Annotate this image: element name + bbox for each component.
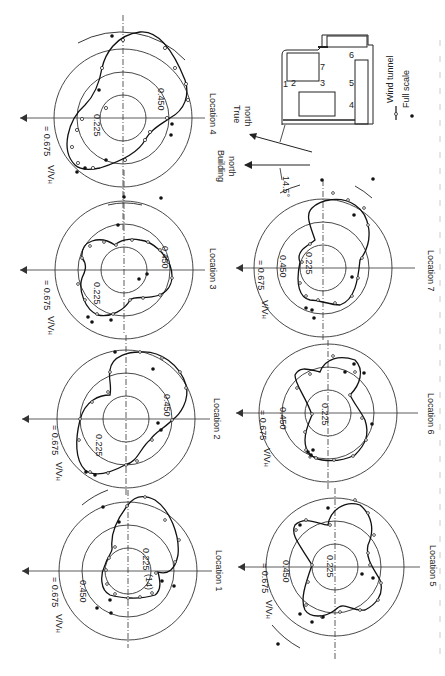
plan-location-7: 7 <box>320 62 325 72</box>
location-2-label: Location 2 <box>212 398 222 440</box>
location-6-label: Location 6 <box>426 393 436 435</box>
svg-text:0.450: 0.450 <box>78 580 88 603</box>
polar-plot-location-1: 0.225 (14) 0.450 = 0.675 V/VH Location 1 <box>22 490 224 648</box>
svg-text:= 0.675: = 0.675 <box>50 425 60 455</box>
building-north-line2: north <box>227 156 237 177</box>
location-4-label: Location 4 <box>208 93 218 135</box>
ring-label-0225: 0.225 <box>92 114 102 137</box>
svg-text:= 0.675: = 0.675 <box>258 410 268 440</box>
polar-plot-location-4: 0.450 0.225 = 0.675 V/VH Location 4 <box>20 15 218 230</box>
location-5-label: Location 5 <box>428 545 438 587</box>
svg-text:0.450: 0.450 <box>162 394 172 417</box>
svg-text:V/VH: V/VH <box>260 300 270 319</box>
polar-plot-location-2: 0.450 0.225 = 0.675 V/VH Location 2 <box>22 335 222 495</box>
svg-text:V/VH: V/VH <box>54 614 64 633</box>
svg-text:0.225: 0.225 <box>94 434 104 457</box>
svg-text:= 0.675: = 0.675 <box>260 563 270 593</box>
ratio-equals-label: = 0.675 <box>42 126 52 156</box>
svg-text:0.450: 0.450 <box>278 255 288 278</box>
true-north-line1: True <box>232 105 242 123</box>
svg-text:0.225: 0.225 <box>92 282 102 305</box>
svg-text:0.225: 0.225 <box>325 555 335 578</box>
plan-location-4: 4 <box>349 100 354 110</box>
building-site-plan: 1 2 3 4 5 6 7 <box>282 35 373 125</box>
svg-text:0.450: 0.450 <box>160 246 170 269</box>
ratio-label: V/VH <box>46 165 56 184</box>
polar-plot-location-3: 0.450 0.225 = 0.675 V/VH Location 3 <box>20 170 218 339</box>
svg-text:V/VH: V/VH <box>264 600 274 619</box>
location-3-label: Location 3 <box>208 248 218 290</box>
polar-plot-location-5: 0.225 0.450 = 0.675 V/VH Location 5 <box>238 488 438 660</box>
plan-location-6: 6 <box>349 50 354 60</box>
svg-text:0.225: 0.225 <box>320 403 330 426</box>
location-7-label: Location 7 <box>426 250 436 292</box>
compass-arrows: Building north True north 14.5° <box>216 105 312 198</box>
legend: Wind tunnel Full scale <box>385 55 414 120</box>
svg-text:= 0.675: = 0.675 <box>256 260 266 290</box>
plan-location-3: 3 <box>320 78 325 88</box>
polar-figure: 0.450 0.225 = 0.675 V/VH Location 4 0.45… <box>0 0 445 676</box>
annotation-14: (14) <box>144 574 154 590</box>
legend-wind-tunnel: Wind tunnel <box>385 55 395 103</box>
legend-full-scale: Full scale <box>401 70 411 108</box>
svg-text:V/VH: V/VH <box>46 316 56 335</box>
svg-text:0.225: 0.225 <box>304 252 314 275</box>
svg-text:V/VH: V/VH <box>54 462 64 481</box>
location-1-label: Location 1 <box>214 550 224 592</box>
svg-text:0.225: 0.225 <box>141 548 151 571</box>
building-north-line1: Building <box>216 150 226 182</box>
polar-plot-location-7: 0.225 0.450 = 0.675 V/VH Location 7 <box>236 177 436 340</box>
polar-plot-location-6: 0.225 0.450 = 0.675 V/VH Location 6 <box>236 340 436 490</box>
svg-text:= 0.675: = 0.675 <box>42 280 52 310</box>
svg-text:0.450: 0.450 <box>281 560 291 583</box>
angle-label: 14.5° <box>281 176 291 198</box>
plan-location-1: 1 <box>283 79 288 89</box>
full-scale-dot-icon <box>410 114 414 118</box>
svg-text:V/VH: V/VH <box>262 448 272 467</box>
building-north-arrow-icon <box>244 161 252 169</box>
true-north-arrow-icon <box>249 133 257 140</box>
plan-location-2: 2 <box>291 78 296 88</box>
svg-text:= 0.675: = 0.675 <box>50 577 60 607</box>
svg-text:0.450: 0.450 <box>278 407 288 430</box>
ring-label-0450: 0.450 <box>156 88 166 111</box>
plan-location-5: 5 <box>349 78 354 88</box>
true-north-line2: north <box>243 106 253 127</box>
